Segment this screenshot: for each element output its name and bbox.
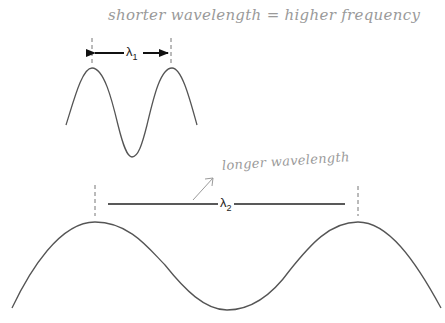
long-wave-curve [12,222,441,310]
short-wave-curve [66,68,197,157]
handwritten-pointer-arrow [193,178,213,200]
top-handwritten-note: shorter wavelength = higher frequency [108,6,420,24]
lambda2-label: λ2 [219,196,233,215]
lambda1-subscript: 1 [133,52,138,62]
lambda1-label: λ1 [125,45,139,64]
lambda2-subscript: 2 [227,203,232,213]
